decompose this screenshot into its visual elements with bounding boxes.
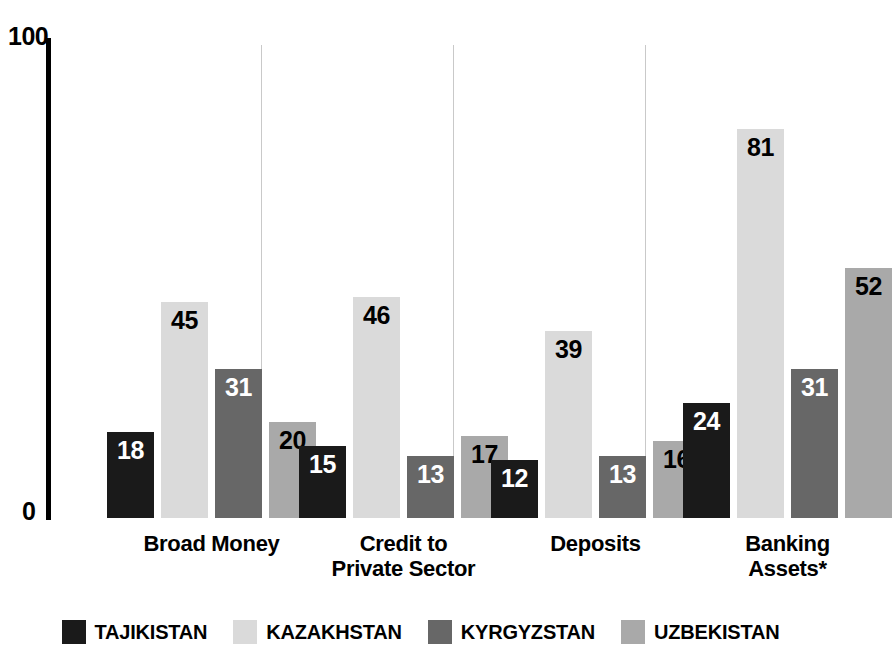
category-label-line: Banking — [683, 532, 892, 557]
category-label-deposits: Deposits — [491, 532, 700, 557]
category-label-banking-assets: BankingAssets* — [683, 532, 892, 581]
bar-tajikistan-credit-to-private-sector: 15 — [299, 446, 346, 518]
bar-value-label: 31 — [791, 375, 838, 400]
category-label-line: Broad Money — [107, 532, 316, 557]
bar-value-label: 39 — [545, 337, 592, 362]
category-label-line: Assets* — [683, 557, 892, 582]
legend-item-tajikistan[interactable]: TAJIKISTAN — [62, 620, 208, 644]
bar-value-label: 81 — [737, 135, 784, 160]
bar-value-label: 52 — [845, 274, 892, 299]
legend-swatch-icon — [621, 620, 645, 644]
category-label-line: Deposits — [491, 532, 700, 557]
bar-tajikistan-broad-money: 18 — [107, 432, 154, 518]
legend-item-uzbekistan[interactable]: UZBEKISTAN — [621, 620, 779, 644]
bar-tajikistan-banking-assets: 24 — [683, 403, 730, 518]
legend-swatch-icon — [62, 620, 86, 644]
legend-item-kazakhstan[interactable]: KAZAKHSTAN — [233, 620, 401, 644]
legend-label: KYRGYZSTAN — [461, 621, 595, 644]
bar-kyrgyzstan-credit-to-private-sector: 13 — [407, 456, 454, 518]
bar-tajikistan-deposits: 12 — [491, 460, 538, 518]
bar-value-label: 24 — [683, 409, 730, 434]
chart-legend: TAJIKISTANKAZAKHSTANKYRGYZSTANUZBEKISTAN — [0, 612, 841, 652]
legend-item-kyrgyzstan[interactable]: KYRGYZSTAN — [428, 620, 595, 644]
category-label-line: Credit to — [299, 532, 508, 557]
category-label-line: Private Sector — [299, 557, 508, 582]
bar-value-label: 31 — [215, 375, 262, 400]
bar-kyrgyzstan-banking-assets: 31 — [791, 369, 838, 518]
bar-value-label: 13 — [407, 462, 454, 487]
category-label-broad-money: Broad Money — [107, 532, 316, 557]
legend-label: KAZAKHSTAN — [266, 621, 401, 644]
legend-label: UZBEKISTAN — [654, 621, 779, 644]
bar-value-label: 13 — [599, 462, 646, 487]
legend-swatch-icon — [233, 620, 257, 644]
category-label-credit-to-private-sector: Credit toPrivate Sector — [299, 532, 508, 581]
bar-value-label: 15 — [299, 452, 346, 477]
bar-kazakhstan-credit-to-private-sector: 46 — [353, 297, 400, 518]
bar-kazakhstan-banking-assets: 81 — [737, 129, 784, 518]
bar-kazakhstan-deposits: 39 — [545, 331, 592, 518]
bars-layer: 18453120154613171239131624813152 — [0, 38, 841, 518]
legend-swatch-icon — [428, 620, 452, 644]
bar-kyrgyzstan-broad-money: 31 — [215, 369, 262, 518]
plot-area: 100 0 18453120154613171239131624813152 B… — [0, 0, 841, 530]
bar-value-label: 45 — [161, 308, 208, 333]
bar-kyrgyzstan-deposits: 13 — [599, 456, 646, 518]
bar-uzbekistan-banking-assets: 52 — [845, 268, 892, 518]
bar-kazakhstan-broad-money: 45 — [161, 302, 208, 518]
legend-label: TAJIKISTAN — [95, 621, 208, 644]
bar-value-label: 46 — [353, 303, 400, 328]
bar-value-label: 18 — [107, 438, 154, 463]
bar-value-label: 12 — [491, 466, 538, 491]
